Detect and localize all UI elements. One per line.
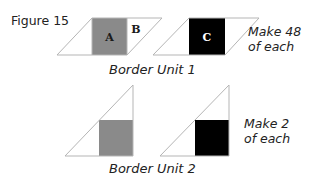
border-unit-1-caption: Border Unit 1 [109, 62, 196, 77]
note-line-1: Make 2 [244, 116, 290, 131]
border-unit-2-shape-gray [65, 85, 133, 156]
label-b: B [131, 23, 140, 36]
border-unit-2-note: Make 2 of each [244, 116, 290, 146]
label-c: C [203, 31, 212, 44]
note-line-2: of each [248, 39, 301, 54]
note-line-1: Make 48 [248, 24, 301, 39]
square-gray [99, 120, 133, 156]
note-line-2: of each [244, 131, 290, 146]
border-unit-1-note: Make 48 of each [248, 24, 301, 54]
label-a: A [104, 31, 114, 44]
square-black [195, 120, 229, 156]
border-unit-1-shape-c: C [153, 18, 259, 55]
border-unit-1-shape-a: A B [57, 18, 162, 55]
border-unit-2-shape-black [160, 85, 229, 156]
border-unit-2-caption: Border Unit 2 [109, 161, 196, 176]
